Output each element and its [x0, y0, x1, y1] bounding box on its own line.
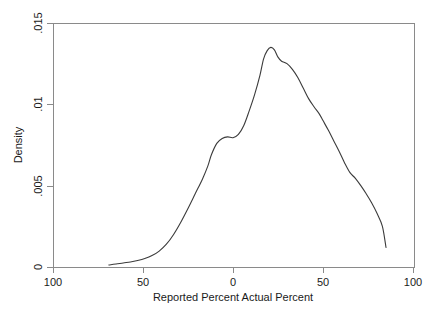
x-tick-label-neg50: 50 [137, 276, 149, 288]
y-tick-label-01: .01 [32, 96, 44, 111]
x-tick-label-0: 0 [230, 276, 236, 288]
y-tick-label-0: 0 [32, 264, 44, 270]
y-axis-title: Density [12, 126, 24, 163]
y-tick-label-015: .015 [32, 12, 44, 33]
x-tick-label-50: 50 [317, 276, 329, 288]
x-axis-title: Reported Percent Actual Percent [153, 291, 313, 303]
chart-background [0, 0, 430, 317]
x-tick-label-neg100: 100 [44, 276, 62, 288]
chart-canvas: .015 .01 .005 0 Density 100 50 0 50 100 … [0, 0, 430, 317]
x-tick-label-100: 100 [404, 276, 422, 288]
density-plot-figure: .015 .01 .005 0 Density 100 50 0 50 100 … [0, 0, 430, 317]
y-tick-label-005: .005 [32, 175, 44, 196]
